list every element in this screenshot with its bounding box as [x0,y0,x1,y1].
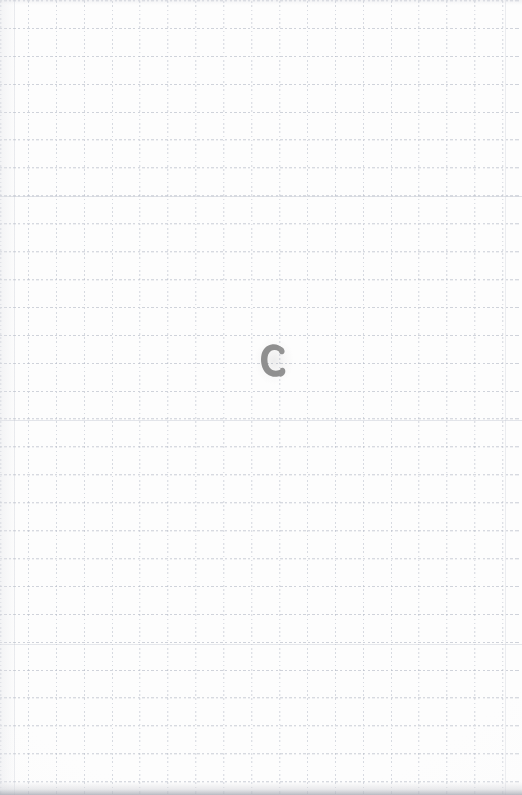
paper-background [0,0,522,795]
handwritten-letter-c [258,341,290,381]
scanned-graph-paper-page [0,0,522,795]
